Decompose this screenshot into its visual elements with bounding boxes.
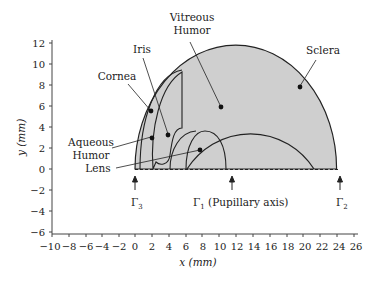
lens-label: Lens bbox=[85, 162, 110, 174]
gamma3-arrow-icon bbox=[133, 176, 138, 182]
x-tick-label: 10 bbox=[214, 241, 227, 252]
x-tick-label: 14 bbox=[248, 241, 261, 252]
y-tick-label: 4 bbox=[39, 122, 45, 133]
x-tick-label: −4 bbox=[95, 241, 110, 252]
x-tick-label: 8 bbox=[200, 241, 206, 252]
aqueous-label: Aqueous bbox=[67, 136, 114, 148]
cornea-label: Cornea bbox=[98, 70, 137, 82]
vitreous-label-line2: Humor bbox=[173, 24, 211, 36]
sclera-region bbox=[135, 45, 337, 169]
x-tick-label: 6 bbox=[183, 241, 189, 252]
aqueous-marker bbox=[150, 136, 155, 141]
x-tick-label: −2 bbox=[112, 241, 127, 252]
vitreous-label: Vitreous bbox=[169, 11, 215, 23]
x-tick-label: 12 bbox=[231, 241, 244, 252]
y-tick-label: −2 bbox=[30, 185, 45, 196]
x-tick-label: 24 bbox=[333, 241, 346, 252]
lens-marker bbox=[198, 148, 203, 153]
x-tick-label: 16 bbox=[265, 241, 278, 252]
y-tick-label: 10 bbox=[32, 59, 45, 70]
gamma2-arrow-icon bbox=[338, 176, 343, 182]
iris-label: Iris bbox=[133, 43, 151, 55]
y-tick-label: 2 bbox=[39, 143, 45, 154]
y-tick-label: 0 bbox=[39, 164, 45, 175]
x-tick-label: −10 bbox=[39, 241, 60, 252]
iris-marker bbox=[166, 133, 171, 138]
x-tick-label: 26 bbox=[350, 241, 363, 252]
y-axis-label: y (mm) bbox=[15, 119, 27, 157]
gamma2-label: Γ2 bbox=[336, 196, 348, 211]
x-tick-label: 2 bbox=[149, 241, 155, 252]
aqueous-label-line2: Humor bbox=[72, 149, 110, 161]
y-tick-label: 12 bbox=[32, 38, 45, 49]
sclera-marker bbox=[298, 85, 303, 90]
y-tick-label: 6 bbox=[39, 101, 45, 112]
x-tick-label: 22 bbox=[316, 241, 329, 252]
x-axis-label: x (mm) bbox=[179, 256, 216, 268]
gamma3-label: Γ3 bbox=[131, 196, 143, 211]
y-tick-label: −6 bbox=[30, 227, 45, 238]
sclera-label: Sclera bbox=[306, 44, 340, 56]
gamma1-arrow-icon bbox=[230, 176, 235, 182]
vitreous-marker bbox=[219, 105, 224, 110]
y-tick-label: −4 bbox=[30, 206, 45, 217]
x-tick-label: 18 bbox=[282, 241, 295, 252]
x-tick-label: 4 bbox=[166, 241, 172, 252]
eye-model-diagram: 12 10 8 6 4 2 0 −2 −4 −6 y (mm) −10 −8 bbox=[0, 0, 382, 282]
x-tick-label: 0 bbox=[132, 241, 138, 252]
x-tick-label: −6 bbox=[79, 241, 94, 252]
x-tick-label: 20 bbox=[299, 241, 312, 252]
gamma1-label: Γ1 (Pupillary axis) bbox=[193, 196, 288, 211]
cornea-marker bbox=[149, 109, 154, 114]
y-tick-label: 8 bbox=[39, 80, 45, 91]
x-tick-label: −8 bbox=[62, 241, 77, 252]
